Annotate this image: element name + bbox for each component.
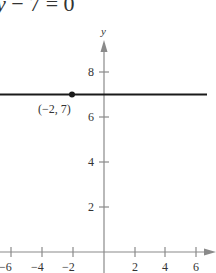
x-tick-label: 2 — [132, 260, 138, 273]
y-axis-label: y — [100, 25, 106, 37]
x-tick-label: 4 — [162, 260, 168, 273]
y-tick-label: 6 — [88, 110, 94, 124]
x-tick-label: −2 — [62, 260, 75, 273]
y-axis-arrow-icon — [101, 40, 108, 52]
x-tick-label: −4 — [31, 260, 44, 273]
point-marker — [69, 92, 75, 98]
x-axis-arrow-icon — [204, 249, 216, 256]
chart-plot: y −6 −4 −2 2 4 6 8 6 4 2 (−2, 7) — [0, 0, 216, 273]
x-tick-label: −6 — [0, 260, 12, 273]
y-tick-label: 2 — [88, 200, 94, 214]
x-tick-label: 6 — [193, 260, 199, 273]
y-tick-label: 4 — [88, 155, 94, 169]
point-label: (−2, 7) — [38, 102, 71, 116]
y-tick-label: 8 — [88, 65, 94, 79]
